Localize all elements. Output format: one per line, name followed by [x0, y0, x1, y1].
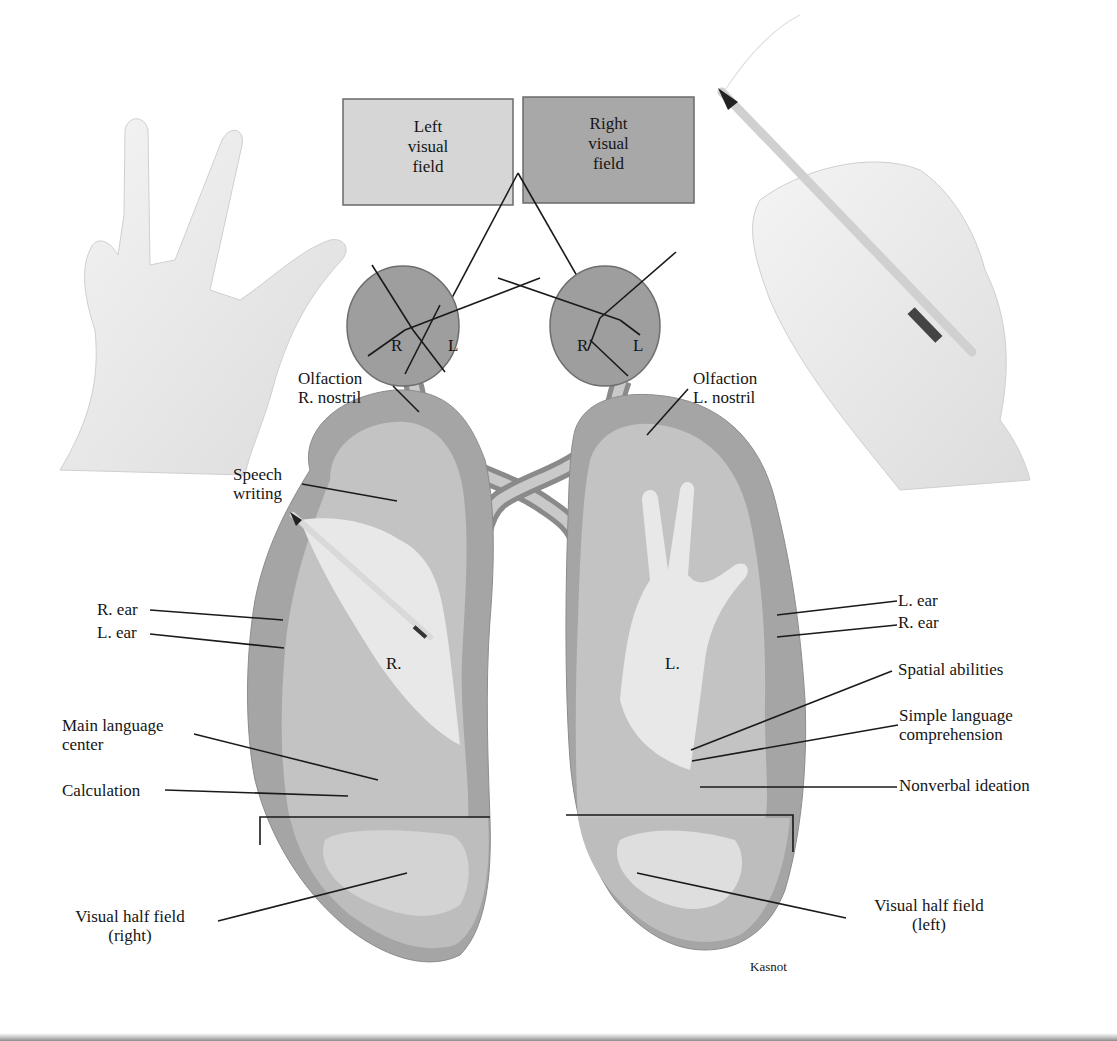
- main-language-center-label: Main language center: [62, 716, 164, 754]
- right-eye-r-label: R: [577, 336, 588, 355]
- left-hemisphere: [248, 390, 494, 962]
- page-edge-shadow: [0, 1033, 1117, 1041]
- left-visual-field-label: Left visual field: [343, 117, 513, 177]
- right-visual-field-line2: visual: [523, 134, 694, 154]
- visual-half-left-line1: Visual half field: [846, 896, 1012, 915]
- left-eye-r-label: R: [391, 336, 402, 355]
- spatial-abilities-label: Spatial abilities: [898, 660, 1003, 679]
- right-l-ear-label: L. ear: [898, 591, 938, 610]
- left-l-ear-label: L. ear: [97, 623, 137, 642]
- visual-half-left-line2: (left): [846, 915, 1012, 934]
- calculation-label: Calculation: [62, 781, 140, 800]
- main-language-line2: center: [62, 735, 164, 754]
- olfaction-l-line2: L. nostril: [693, 388, 757, 407]
- right-hand-pencil-illustration: [718, 15, 1030, 490]
- right-hemisphere: [566, 394, 806, 950]
- right-r-ear-label: R. ear: [898, 613, 939, 632]
- right-hand-label: R.: [386, 654, 402, 673]
- olfaction-l-nostril-label: Olfaction L. nostril: [693, 369, 757, 407]
- visual-half-right-line1: Visual half field: [40, 907, 220, 926]
- olfaction-r-line2: R. nostril: [298, 388, 362, 407]
- speech-line2: writing: [233, 484, 282, 503]
- main-language-line1: Main language: [62, 716, 164, 735]
- simple-language-comprehension-label: Simple language comprehension: [899, 706, 1013, 744]
- artist-signature: Kasnot: [750, 957, 787, 976]
- simple-language-line1: Simple language: [899, 706, 1013, 725]
- left-visual-field-line2: visual: [343, 137, 513, 157]
- left-eye-l-label: L: [448, 336, 458, 355]
- right-visual-field-label: Right visual field: [523, 114, 694, 174]
- left-hand-label: L.: [665, 654, 680, 673]
- speech-line1: Speech: [233, 465, 282, 484]
- right-eyeball: [498, 252, 676, 386]
- speech-writing-label: Speech writing: [233, 465, 282, 503]
- left-visual-field-line3: field: [343, 157, 513, 177]
- simple-language-line2: comprehension: [899, 725, 1013, 744]
- left-visual-field-line1: Left: [343, 117, 513, 137]
- left-r-ear-label: R. ear: [97, 600, 138, 619]
- olfaction-r-nostril-label: Olfaction R. nostril: [298, 369, 362, 407]
- visual-half-right-line2: (right): [40, 926, 220, 945]
- nonverbal-ideation-label: Nonverbal ideation: [899, 776, 1030, 795]
- visual-half-field-right-label: Visual half field (right): [40, 907, 220, 945]
- olfaction-l-line1: Olfaction: [693, 369, 757, 388]
- right-visual-field-line3: field: [523, 154, 694, 174]
- right-visual-field-line1: Right: [523, 114, 694, 134]
- visual-half-field-left-label: Visual half field (left): [846, 896, 1012, 934]
- left-hand-illustration: [60, 119, 346, 475]
- right-eye-l-label: L: [633, 336, 643, 355]
- olfaction-r-line1: Olfaction: [298, 369, 362, 388]
